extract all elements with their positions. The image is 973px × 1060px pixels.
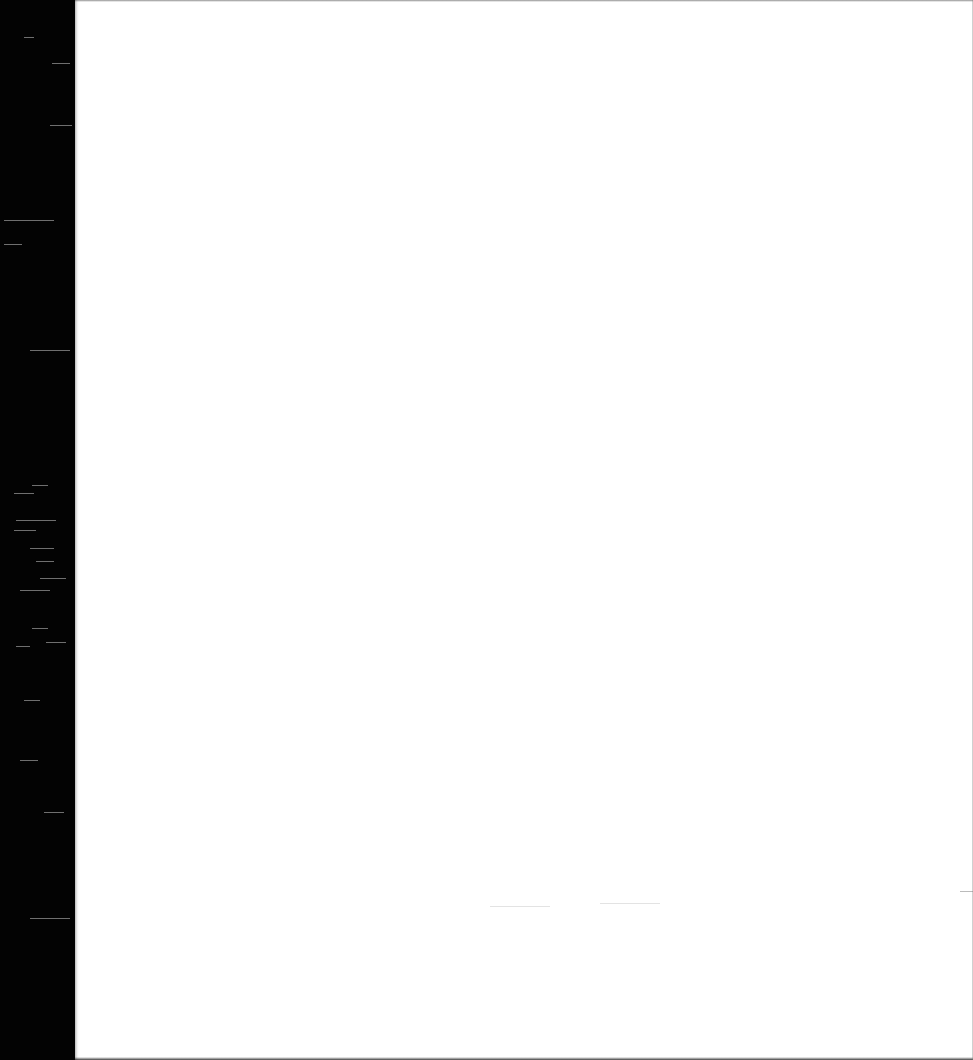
scan-artifact (32, 485, 48, 486)
scan-artifact (30, 350, 70, 351)
scan-artifact (600, 903, 660, 904)
scan-artifact (20, 590, 50, 591)
scan-artifact (14, 493, 34, 494)
scan-artifact (24, 37, 34, 38)
scan-artifact (52, 63, 70, 64)
scan-artifact (50, 125, 72, 126)
scan-artifact (36, 561, 54, 562)
scan-artifact (46, 642, 66, 643)
scan-artifact (960, 891, 973, 892)
scan-artifact (20, 760, 38, 761)
page-top-edge (75, 0, 973, 2)
scan-artifact (16, 520, 56, 521)
scan-artifact (490, 906, 550, 907)
scan-artifact (30, 548, 54, 549)
scan-artifact (16, 646, 30, 647)
scan-artifact (44, 812, 64, 813)
blank-page (75, 0, 973, 1060)
scanned-document (0, 0, 973, 1060)
scan-artifact (40, 578, 66, 579)
scan-artifact (32, 628, 48, 629)
scan-artifact (24, 700, 40, 701)
scanner-background-strip (0, 0, 75, 1060)
scan-artifact (4, 244, 22, 245)
scan-artifact (14, 530, 36, 531)
scan-artifact (4, 220, 54, 221)
scan-artifact (30, 918, 70, 919)
